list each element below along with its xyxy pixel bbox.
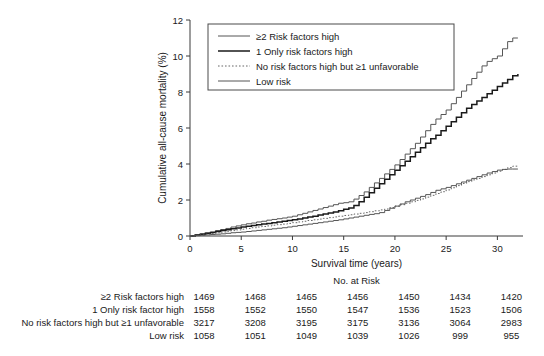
y-tick-label-4: 4 (178, 159, 183, 170)
y-tick-label-0: 0 (178, 231, 183, 242)
survival-curve-figure: 024681012051015202530Survival time (year… (0, 0, 544, 356)
risk-cell-3-3: 1039 (347, 330, 368, 341)
risk-cell-2-0: 3217 (193, 317, 214, 328)
legend-label-2: No risk factors high but ≥1 unfavorable (256, 61, 419, 72)
risk-cell-3-5: 999 (452, 330, 468, 341)
risk-cell-0-0: 1469 (193, 291, 214, 302)
risk-cell-1-1: 1552 (245, 304, 266, 315)
risk-cell-1-5: 1523 (450, 304, 471, 315)
risk-cell-3-6: 955 (503, 330, 519, 341)
risk-cell-1-6: 1506 (501, 304, 522, 315)
risk-cell-0-1: 1468 (245, 291, 266, 302)
risk-cell-2-5: 3064 (450, 317, 471, 328)
chart-svg: 024681012051015202530Survival time (year… (0, 0, 544, 356)
risk-table-title: No. at Risk (333, 275, 380, 286)
risk-cell-2-2: 3195 (296, 317, 317, 328)
y-tick-label-10: 10 (172, 51, 183, 62)
risk-cell-3-2: 1049 (296, 330, 317, 341)
risk-cell-2-3: 3175 (347, 317, 368, 328)
risk-cell-3-0: 1058 (193, 330, 214, 341)
risk-row-label-3: Low risk (149, 330, 184, 341)
risk-cell-1-4: 1536 (398, 304, 419, 315)
y-tick-label-12: 12 (172, 15, 183, 26)
risk-cell-2-4: 3136 (398, 317, 419, 328)
risk-row-label-2: No risk factors high but ≥1 unfavorable (21, 317, 184, 328)
y-tick-label-8: 8 (178, 87, 183, 98)
x-tick-label-5: 5 (239, 243, 244, 254)
risk-cell-1-3: 1547 (347, 304, 368, 315)
risk-row-label-0: ≥2 Risk factors high (101, 291, 184, 302)
risk-cell-2-6: 2983 (501, 317, 522, 328)
risk-cell-3-1: 1051 (245, 330, 266, 341)
risk-cell-0-6: 1420 (501, 291, 522, 302)
x-tick-label-15: 15 (338, 243, 349, 254)
x-tick-label-10: 10 (287, 243, 298, 254)
x-tick-label-25: 25 (441, 243, 452, 254)
risk-row-label-1: 1 Only risk factor high (92, 304, 184, 315)
x-tick-label-30: 30 (492, 243, 503, 254)
risk-cell-1-0: 1558 (193, 304, 214, 315)
x-axis-title: Survival time (years) (311, 258, 402, 269)
y-tick-label-2: 2 (178, 195, 183, 206)
risk-cell-0-5: 1434 (450, 291, 471, 302)
x-tick-label-0: 0 (187, 243, 192, 254)
legend-label-0: ≥2 Risk factors high (256, 31, 339, 42)
legend-label-3: Low risk (256, 76, 291, 87)
y-axis-title: Cumulative all-cause mortality (%) (157, 52, 168, 204)
risk-cell-0-3: 1456 (347, 291, 368, 302)
risk-cell-1-2: 1550 (296, 304, 317, 315)
x-tick-label-20: 20 (390, 243, 401, 254)
series-curve-1 (190, 74, 518, 236)
risk-cell-3-4: 1026 (398, 330, 419, 341)
legend-label-1: 1 Only risk factors high (256, 46, 353, 57)
risk-cell-0-4: 1450 (398, 291, 419, 302)
risk-cell-2-1: 3208 (245, 317, 266, 328)
risk-cell-0-2: 1465 (296, 291, 317, 302)
y-tick-label-6: 6 (178, 123, 183, 134)
